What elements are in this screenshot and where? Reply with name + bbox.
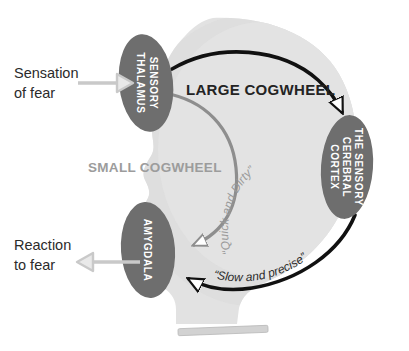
- reaction-to-fear-line1: Reaction: [14, 237, 71, 253]
- large-cogwheel-label: LARGE COGWHEEL: [186, 81, 335, 98]
- sensation-of-fear-label: Sensation of fear: [14, 65, 79, 101]
- fear-pathway-diagram: SENSORY THALAMUS AMYGDALA THE SENSORY CE…: [0, 0, 409, 351]
- reaction-to-fear-label: Reaction to fear: [14, 237, 71, 273]
- sensation-of-fear-line1: Sensation: [14, 65, 79, 81]
- reaction-arrowhead: [77, 253, 93, 271]
- cerebral-cortex-label-line3: CORTEX: [329, 144, 340, 189]
- sensory-thalamus-label-line1: SENSORY: [148, 57, 159, 110]
- sensory-thalamus-label-line2: THALAMUS: [135, 53, 146, 114]
- amygdala-label: AMYGDALA: [142, 219, 153, 282]
- small-cogwheel-label: SMALL COGWHEEL: [88, 160, 222, 175]
- cerebral-cortex-label-line1: THE SENSORY: [353, 128, 364, 206]
- sensation-of-fear-line2: of fear: [14, 85, 55, 101]
- base-bar: [178, 325, 268, 335]
- diagram-canvas: SENSORY THALAMUS AMYGDALA THE SENSORY CE…: [0, 0, 409, 351]
- cerebral-cortex-label-line2: CEREBRAL: [341, 137, 352, 197]
- reaction-to-fear-line2: to fear: [14, 257, 55, 273]
